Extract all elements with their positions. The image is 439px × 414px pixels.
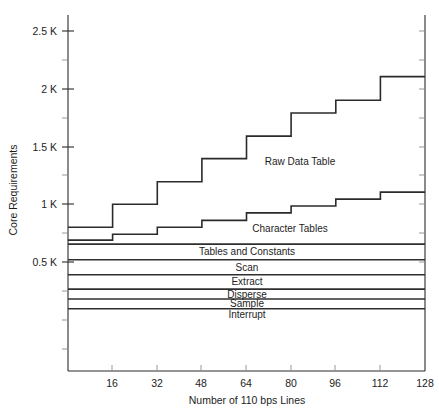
x-tick-label-16: 16 (106, 377, 118, 389)
core-requirements-chart: 2.5 K 2 K 1.5 K 1 K 0.5 K Core Requireme… (0, 0, 439, 414)
x-tick-label-128: 128 (416, 377, 434, 389)
band-label-tables-and-constants: Tables and Constants (199, 246, 295, 257)
x-tick-label-112: 112 (372, 377, 389, 389)
band-label-sample: Sample (230, 298, 264, 309)
chart-background (0, 0, 439, 414)
y-tick-label-1000: 1 K (41, 198, 57, 210)
chart-svg: 2.5 K 2 K 1.5 K 1 K 0.5 K Core Requireme… (0, 0, 439, 414)
y-axis-title: Core Requirements (7, 144, 19, 235)
band-label-disperse: Disperse (227, 289, 267, 300)
band-label-extract: Extract (231, 276, 262, 287)
x-tick-label-64: 64 (240, 377, 252, 389)
x-tick-label-32: 32 (151, 377, 163, 389)
band-label-interrupt: Interrupt (228, 309, 265, 320)
character-tables-annotation: Character Tables (252, 223, 327, 234)
raw-data-table-annotation: Raw Data Table (265, 156, 336, 167)
y-tick-label-500: 0.5 K (32, 256, 57, 268)
y-tick-label-2000: 2 K (41, 83, 57, 95)
x-tick-label-80: 80 (285, 377, 297, 389)
x-axis-title: Number of 110 bps Lines (189, 394, 306, 406)
band-label-scan: Scan (236, 262, 259, 273)
x-tick-label-96: 96 (329, 377, 341, 389)
y-tick-label-2500: 2.5 K (32, 25, 57, 37)
x-tick-label-48: 48 (195, 377, 207, 389)
y-tick-label-1500: 1.5 K (32, 141, 57, 153)
